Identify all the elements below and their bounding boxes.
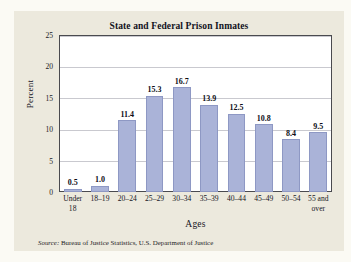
bar[interactable] bbox=[64, 189, 82, 192]
bar-value-label: 16.7 bbox=[168, 77, 195, 86]
x-tick-label: Under 18 bbox=[59, 194, 86, 214]
x-tick-label: 40–44 bbox=[223, 194, 250, 214]
bar-slot: 15.3 bbox=[141, 35, 168, 192]
bar[interactable] bbox=[255, 124, 273, 192]
x-tick-label: 55 and over bbox=[305, 194, 332, 214]
bar-value-label: 1.0 bbox=[86, 175, 113, 184]
source-note: Source: Bureau of Justice Statistics, U.… bbox=[38, 239, 338, 246]
bar[interactable] bbox=[146, 96, 164, 192]
bar-value-label: 10.8 bbox=[250, 114, 277, 123]
bar[interactable] bbox=[309, 132, 327, 192]
bar-slot: 8.4 bbox=[277, 35, 304, 192]
bar-slot: 9.5 bbox=[305, 35, 332, 192]
x-tick-label: 25–29 bbox=[141, 194, 168, 214]
x-tick-label: 18–19 bbox=[86, 194, 113, 214]
bar[interactable] bbox=[200, 105, 218, 192]
y-tick-label: 0 bbox=[49, 188, 53, 197]
bar[interactable] bbox=[228, 114, 246, 193]
x-tick-label: 30–34 bbox=[168, 194, 195, 214]
bar-value-label: 0.5 bbox=[59, 178, 86, 187]
y-tick-label: 15 bbox=[45, 93, 53, 102]
bar-value-label: 12.5 bbox=[223, 103, 250, 112]
bar-value-label: 11.4 bbox=[114, 110, 141, 119]
x-tick-label: 45–49 bbox=[250, 194, 277, 214]
y-axis-tick-labels: 0510152025 bbox=[14, 35, 57, 192]
bar[interactable] bbox=[282, 139, 300, 192]
bar-slot: 0.5 bbox=[59, 35, 86, 192]
source-text: Bureau of Justice Statistics, U.S. Depar… bbox=[59, 239, 213, 246]
bar-slot: 13.9 bbox=[195, 35, 222, 192]
bar-value-label: 8.4 bbox=[277, 129, 304, 138]
bar[interactable] bbox=[91, 186, 109, 192]
bar-slot: 10.8 bbox=[250, 35, 277, 192]
x-axis-title: Ages bbox=[59, 219, 332, 229]
bar-value-label: 9.5 bbox=[305, 122, 332, 131]
y-tick-label: 5 bbox=[49, 156, 53, 165]
bar[interactable] bbox=[118, 120, 136, 192]
bar-slot: 11.4 bbox=[114, 35, 141, 192]
bar-slot: 16.7 bbox=[168, 35, 195, 192]
chart-figure: State and Federal Prison Inmates Percent… bbox=[14, 11, 344, 251]
chart-title: State and Federal Prison Inmates bbox=[14, 21, 344, 31]
bar[interactable] bbox=[173, 87, 191, 192]
source-label: Source: bbox=[38, 239, 59, 246]
bar-slot: 12.5 bbox=[223, 35, 250, 192]
x-tick-label: 35–39 bbox=[195, 194, 222, 214]
y-tick-label: 10 bbox=[45, 125, 53, 134]
x-tick-label: 50–54 bbox=[277, 194, 304, 214]
bar-value-label: 13.9 bbox=[195, 94, 222, 103]
y-tick-label: 25 bbox=[45, 31, 53, 40]
bar-slot: 1.0 bbox=[86, 35, 113, 192]
y-tick-label: 20 bbox=[45, 62, 53, 71]
bar-value-label: 15.3 bbox=[141, 85, 168, 94]
x-axis-tick-labels: Under 1818–1920–2425–2930–3435–3940–4445… bbox=[59, 194, 332, 214]
bar-series: 0.51.011.415.316.713.912.510.88.49.5 bbox=[59, 35, 332, 192]
x-tick-label: 20–24 bbox=[114, 194, 141, 214]
